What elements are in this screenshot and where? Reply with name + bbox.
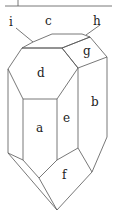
label-g: g — [83, 45, 91, 57]
label-a: a — [36, 122, 43, 134]
label-e: e — [63, 112, 70, 124]
label-b: b — [91, 96, 99, 108]
crystal-diagram: i c h g d a e b f — [0, 0, 118, 216]
label-h: h — [93, 15, 101, 27]
label-f: f — [62, 169, 66, 181]
label-i: i — [9, 16, 13, 28]
label-c: c — [45, 15, 52, 27]
crystal-outline — [0, 0, 118, 216]
label-d: d — [37, 67, 45, 79]
